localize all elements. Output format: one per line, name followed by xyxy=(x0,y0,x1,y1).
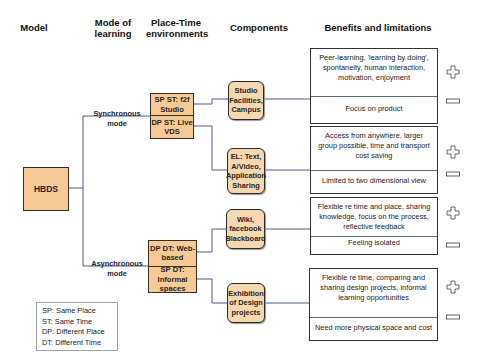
legend: SP: Same Place ST: Same Time DP: Differe… xyxy=(36,302,118,351)
connector-sp-st xyxy=(193,99,228,104)
legend-item: ST: Same Time xyxy=(42,317,112,328)
limitation-text: Need more physical space and cost xyxy=(310,316,437,340)
legend-item: DP: Different Place xyxy=(42,327,112,338)
plus-icon xyxy=(446,280,460,294)
benefit-text: Flexible re time, comparing and sharing … xyxy=(310,269,437,318)
legend-item: DT: Different Time xyxy=(42,338,112,349)
benefits-box-1: Peer-learning, 'learning by doing', spon… xyxy=(310,48,438,124)
minus-icon xyxy=(446,314,460,320)
environment-synchronous: SP ST: f2f Studio DP ST: Live VDS xyxy=(150,93,194,139)
environment-dp-st: DP ST: Live VDS xyxy=(151,116,193,138)
benefits-box-3: Flexible re time and place, sharing know… xyxy=(310,197,438,255)
component-studio-facilities: Studio Facilities, Campus xyxy=(228,81,264,120)
model-box-hbds: HBDS xyxy=(23,167,69,211)
minus-icon xyxy=(446,171,460,177)
minus-icon xyxy=(446,242,460,248)
connector-dp-dt xyxy=(196,229,228,252)
benefit-text: Access from anywhere, larger group possi… xyxy=(311,127,437,171)
component-exhibition: Exhibition of Design projects xyxy=(227,283,265,323)
legend-item: SP: Same Place xyxy=(42,306,112,317)
connector-dp-st xyxy=(193,126,228,170)
environment-sp-st: SP ST: f2f Studio xyxy=(151,94,193,116)
mode-asynchronous: Asynchronous mode xyxy=(86,259,148,279)
mode-synchronous: Synchronous mode xyxy=(86,109,148,129)
limitation-text: Focus on product xyxy=(311,95,437,123)
limitation-text: Limited to two dimensional view xyxy=(311,169,437,193)
plus-icon xyxy=(446,145,460,159)
environment-sp-dt: SP DT: Informal spaces xyxy=(149,267,196,293)
benefit-text: Peer-learning, 'learning by doing', spon… xyxy=(311,49,437,97)
connector-sp-dt xyxy=(196,279,228,303)
component-el-text: EL: Text, A/Video, Application Sharing xyxy=(227,148,265,194)
benefit-text: Flexible re time and place, sharing know… xyxy=(311,198,437,237)
plus-icon xyxy=(446,65,460,79)
benefits-box-2: Access from anywhere, larger group possi… xyxy=(310,126,438,194)
benefits-box-4: Flexible re time, comparing and sharing … xyxy=(309,268,438,341)
environment-dp-dt: DP DT: Web-based xyxy=(149,241,196,267)
minus-icon xyxy=(446,98,460,104)
plus-icon xyxy=(446,206,460,220)
environment-asynchronous: DP DT: Web-based SP DT: Informal spaces xyxy=(148,240,197,293)
limitation-text: Feeling isolated xyxy=(311,235,437,254)
component-wiki: Wiki, facebook Blackboard xyxy=(226,209,265,249)
